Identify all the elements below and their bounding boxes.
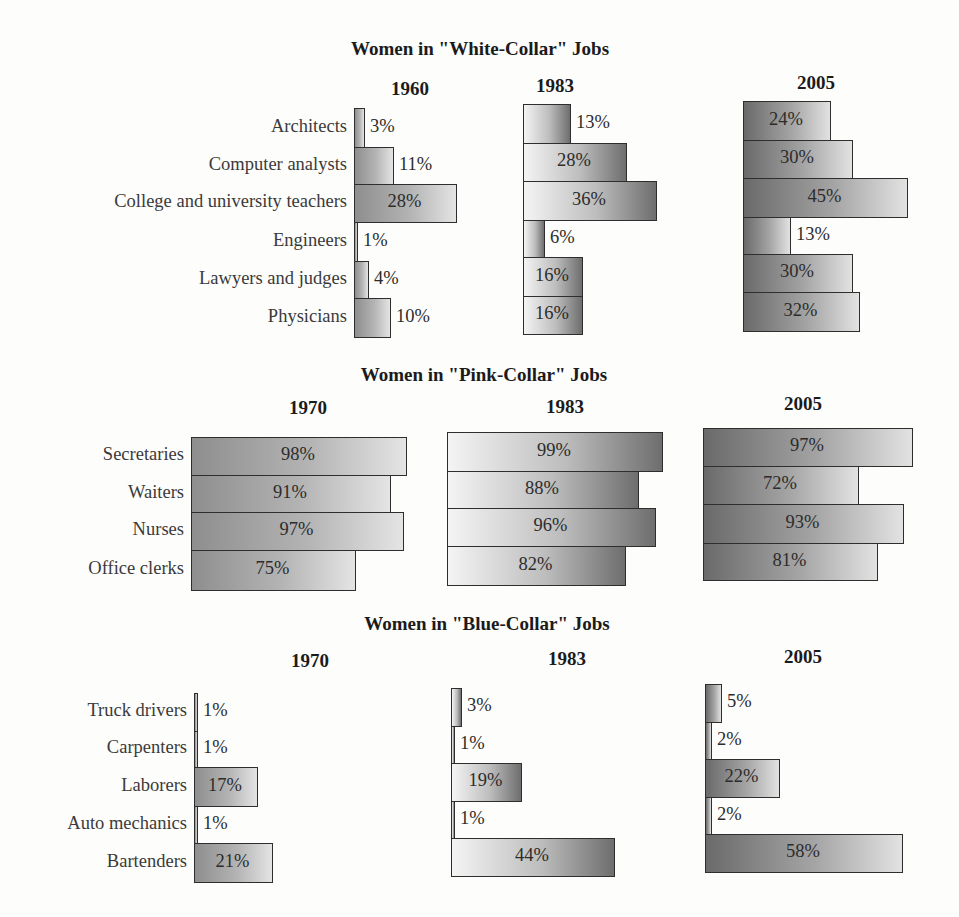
value-label: 97% — [280, 519, 314, 540]
bar — [354, 222, 358, 262]
category-label: Laborers — [121, 775, 187, 796]
bar — [523, 104, 571, 144]
category-label: Auto mechanics — [67, 813, 187, 834]
value-label: 72% — [763, 473, 797, 494]
value-label: 97% — [790, 435, 824, 456]
value-label: 5% — [727, 691, 752, 712]
value-label: 1% — [203, 700, 228, 721]
bar — [523, 220, 545, 258]
value-label: 1% — [363, 230, 388, 251]
blue-year-1983: 1983 — [548, 648, 586, 670]
value-label: 1% — [460, 733, 485, 754]
value-label: 13% — [796, 224, 830, 245]
bar — [451, 726, 455, 764]
value-label: 91% — [273, 482, 307, 503]
value-label: 36% — [572, 189, 606, 210]
value-label: 75% — [256, 558, 290, 579]
category-label: Architects — [271, 116, 347, 137]
value-label: 24% — [769, 109, 803, 130]
bar — [705, 722, 712, 760]
value-label: 32% — [784, 300, 818, 321]
value-label: 17% — [208, 775, 242, 796]
bar — [194, 731, 198, 768]
bar — [354, 108, 365, 148]
value-label: 1% — [460, 808, 485, 829]
value-label: 19% — [469, 770, 503, 791]
category-label: Physicians — [268, 306, 347, 327]
bar — [354, 298, 391, 338]
value-label: 1% — [203, 737, 228, 758]
value-label: 3% — [370, 116, 395, 137]
value-label: 13% — [576, 112, 610, 133]
bar — [451, 688, 462, 727]
bar — [743, 217, 791, 255]
category-label: Truck drivers — [87, 700, 187, 721]
category-label: Waiters — [128, 482, 184, 503]
bar — [194, 806, 198, 844]
pink-year-2005: 2005 — [784, 393, 822, 415]
category-label: Office clerks — [88, 558, 184, 579]
category-label: Carpenters — [107, 737, 187, 758]
value-label: 1% — [203, 813, 228, 834]
value-label: 28% — [388, 191, 422, 212]
category-label: Engineers — [273, 230, 347, 251]
pink-year-1970: 1970 — [289, 397, 327, 419]
value-label: 98% — [281, 444, 315, 465]
value-label: 30% — [780, 147, 814, 168]
value-label: 30% — [780, 261, 814, 282]
value-label: 99% — [537, 440, 571, 461]
category-label: Computer analysts — [209, 154, 347, 175]
bar — [354, 147, 394, 185]
value-label: 2% — [717, 729, 742, 750]
value-label: 45% — [808, 186, 842, 207]
white-year-2005: 2005 — [797, 72, 835, 94]
value-label: 82% — [519, 554, 553, 575]
value-label: 3% — [467, 695, 492, 716]
value-label: 44% — [515, 845, 549, 866]
category-label: Nurses — [133, 519, 184, 540]
bar — [354, 261, 369, 299]
value-label: 88% — [525, 478, 559, 499]
value-label: 22% — [725, 766, 759, 787]
white-year-1960: 1960 — [391, 78, 429, 100]
blue-year-2005: 2005 — [784, 646, 822, 668]
category-label: College and university teachers — [114, 191, 347, 212]
value-label: 28% — [557, 150, 591, 171]
value-label: 16% — [535, 303, 569, 324]
category-label: Lawyers and judges — [199, 268, 347, 289]
value-label: 4% — [374, 268, 399, 289]
white-year-1983: 1983 — [536, 75, 574, 97]
value-label: 93% — [786, 512, 820, 533]
value-label: 2% — [717, 804, 742, 825]
blue-collar-title: Women in "Blue-Collar" Jobs — [364, 613, 609, 635]
pink-year-1983: 1983 — [546, 396, 584, 418]
value-label: 81% — [773, 550, 807, 571]
value-label: 11% — [399, 154, 432, 175]
bar — [705, 797, 712, 835]
value-label: 16% — [535, 265, 569, 286]
category-label: Bartenders — [107, 851, 187, 872]
blue-year-1970: 1970 — [291, 650, 329, 672]
white-collar-title: Women in "White-Collar" Jobs — [351, 38, 609, 60]
value-label: 96% — [534, 515, 568, 536]
value-label: 58% — [786, 841, 820, 862]
value-label: 6% — [550, 227, 575, 248]
category-label: Secretaries — [103, 444, 184, 465]
bar — [451, 801, 455, 839]
bar — [705, 684, 722, 723]
value-label: 21% — [216, 851, 250, 872]
bar — [194, 693, 198, 732]
value-label: 10% — [396, 306, 430, 327]
pink-collar-title: Women in "Pink-Collar" Jobs — [361, 364, 608, 386]
